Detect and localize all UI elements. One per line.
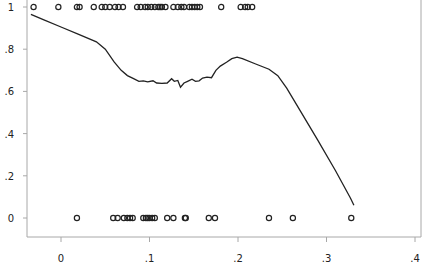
y-tick-label: .8 [4, 44, 14, 55]
x-tick-label: 0 [58, 253, 64, 264]
smoothed-fit-line [31, 14, 354, 205]
data-point [91, 4, 96, 9]
data-point [206, 215, 211, 220]
fit-lines [31, 14, 354, 205]
x-tick-label: .4 [410, 253, 420, 264]
data-point [212, 215, 217, 220]
y-tick-label: 0 [8, 213, 14, 224]
x-tick-label: .2 [233, 253, 243, 264]
x-tick-label: .3 [322, 253, 332, 264]
y-tick-label: .6 [4, 86, 14, 97]
y-tick-label: 1 [8, 2, 14, 13]
data-point [163, 4, 168, 9]
y-axis-ticks: 0.2.4.6.81 [4, 2, 27, 224]
x-tick-label: .1 [145, 253, 155, 264]
data-point [171, 215, 176, 220]
x-axis-ticks: 0.1.2.3.4 [58, 237, 420, 264]
data-point [165, 215, 170, 220]
data-point [290, 215, 295, 220]
y-tick-label: .4 [4, 129, 14, 140]
data-point [74, 215, 79, 220]
y-tick-label: .2 [4, 171, 14, 182]
data-point [219, 4, 224, 9]
data-point [266, 215, 271, 220]
data-point [31, 4, 36, 9]
axes [27, 0, 421, 237]
scatter-points [31, 4, 354, 220]
chart-area: 0.2.4.6.81 0.1.2.3.4 [0, 0, 425, 275]
data-point [56, 4, 61, 9]
data-point [349, 215, 354, 220]
